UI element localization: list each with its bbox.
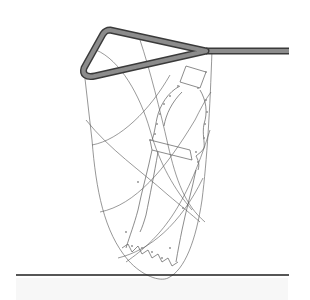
diagram-canvas — [0, 0, 310, 300]
ground-shadow — [16, 278, 288, 300]
diagram-svg — [0, 0, 310, 300]
figure-outline — [122, 66, 206, 266]
